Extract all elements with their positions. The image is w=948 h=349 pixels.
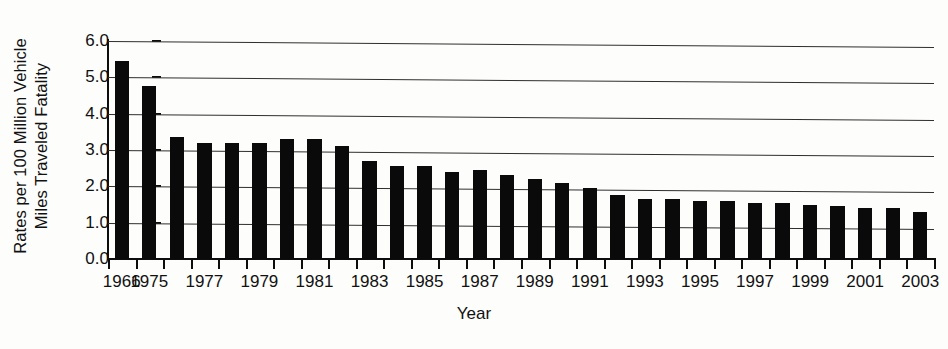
x-tick-mark (493, 260, 495, 269)
bar (280, 139, 294, 259)
bar (665, 199, 679, 259)
bar (775, 203, 789, 259)
bar (830, 206, 844, 259)
x-tick-mark (521, 260, 523, 269)
y-axis-title-line-1: Rates per 100 Million Vehicle (10, 0, 31, 292)
bar (803, 205, 817, 260)
x-tick-mark (301, 260, 303, 269)
x-tick-mark (906, 260, 908, 269)
y-tick-label: 3.0 (67, 141, 109, 158)
y-tick-label: 6.0 (67, 32, 109, 49)
x-tick-mark (576, 260, 578, 269)
bar (500, 175, 514, 259)
x-tick-mark (438, 260, 440, 269)
x-tick-label: 1981 (294, 271, 336, 292)
x-tick-mark (851, 260, 853, 269)
x-tick-label: 1993 (624, 271, 666, 292)
bar (445, 172, 459, 259)
x-tick-mark (659, 260, 661, 269)
bar (115, 61, 129, 259)
x-tick-mark (714, 260, 716, 269)
x-axis-title: Year (0, 303, 948, 324)
bar (362, 161, 376, 259)
y-tick-label: 2.0 (67, 177, 109, 194)
bar (307, 139, 321, 259)
chart-screenshot: Rates per 100 Million Vehicle Miles Trav… (0, 0, 948, 349)
x-tick-mark (549, 260, 551, 269)
bar (610, 195, 624, 259)
y-axis-title-line-2: Miles Traveled Fatality (31, 0, 52, 292)
x-tick-mark (163, 260, 165, 269)
x-tick-mark (356, 260, 358, 269)
x-tick-mark (934, 260, 936, 269)
x-tick-mark (411, 260, 413, 269)
y-tick-label: 5.0 (67, 68, 109, 85)
y-tick-label: 1.0 (67, 214, 109, 231)
bar-series (108, 41, 934, 259)
bar (583, 188, 597, 259)
x-tick-mark (136, 260, 138, 269)
x-tick-mark (218, 260, 220, 269)
bar (417, 166, 431, 259)
bar (748, 203, 762, 259)
x-tick-label: 1983 (349, 271, 391, 292)
x-tick-label: 1995 (679, 271, 721, 292)
x-tick-mark (741, 260, 743, 269)
bar (913, 212, 927, 259)
x-tick-mark (108, 260, 110, 269)
bar (886, 208, 900, 259)
bar (858, 208, 872, 259)
x-tick-label: 1989 (514, 271, 556, 292)
x-tick-label: 1975 (128, 271, 170, 292)
x-axis-tick-labels: 1966197519771979198119831985198719891991… (108, 271, 936, 295)
bar (528, 179, 542, 259)
x-axis-ticks (108, 260, 936, 269)
x-tick-label: 1997 (734, 271, 776, 292)
y-axis-ticks: 6.05.04.03.02.01.00.0 (52, 41, 109, 259)
bar (473, 170, 487, 259)
x-tick-mark (824, 260, 826, 269)
x-tick-mark (191, 260, 193, 269)
x-tick-mark (631, 260, 633, 269)
plot-area (108, 41, 934, 259)
y-tick-label: 4.0 (67, 105, 109, 122)
bar (693, 201, 707, 259)
bar (252, 143, 266, 259)
x-tick-mark (769, 260, 771, 269)
x-tick-mark (686, 260, 688, 269)
bar (335, 146, 349, 259)
x-tick-label: 2001 (844, 271, 886, 292)
x-tick-mark (246, 260, 248, 269)
bar (555, 183, 569, 259)
x-tick-label: 1977 (183, 271, 225, 292)
bar (197, 143, 211, 259)
bar (390, 166, 404, 259)
x-tick-mark (466, 260, 468, 269)
bar (225, 143, 239, 259)
y-tick-label: 0.0 (67, 250, 109, 267)
x-tick-label: 1991 (569, 271, 611, 292)
x-tick-mark (796, 260, 798, 269)
x-tick-label: 2003 (899, 271, 941, 292)
x-tick-label: 1985 (404, 271, 446, 292)
bar (170, 137, 184, 259)
x-tick-label: 1999 (789, 271, 831, 292)
bar (142, 86, 156, 259)
x-tick-mark (328, 260, 330, 269)
x-tick-mark (879, 260, 881, 269)
x-tick-mark (604, 260, 606, 269)
bar (720, 201, 734, 259)
x-tick-label: 1979 (238, 271, 280, 292)
x-tick-mark (383, 260, 385, 269)
x-tick-mark (273, 260, 275, 269)
bar (638, 199, 652, 259)
x-tick-label: 1987 (459, 271, 501, 292)
